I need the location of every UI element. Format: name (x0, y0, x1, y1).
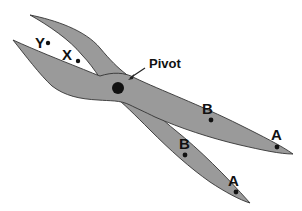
point-a-lower (234, 190, 239, 195)
point-a-upper (275, 145, 280, 150)
point-b-lower (183, 153, 188, 158)
pivot-point (112, 82, 124, 94)
label-x: X (62, 46, 72, 63)
point-y (46, 41, 50, 45)
label-y: Y (35, 34, 45, 51)
pivot-label: Pivot (149, 56, 181, 71)
scissors-lever-diagram: Pivot Y X B A B A (0, 0, 302, 211)
label-a-lower: A (228, 172, 239, 189)
label-b-upper: B (202, 100, 213, 117)
label-a-upper: A (271, 126, 282, 143)
point-x (76, 59, 80, 63)
point-b-upper (209, 118, 214, 123)
label-b-lower: B (179, 135, 190, 152)
